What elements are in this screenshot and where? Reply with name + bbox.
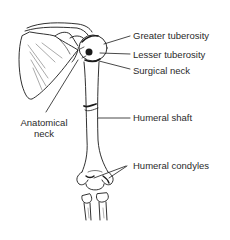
scapula	[19, 32, 78, 99]
label-anatomical-neck-line1: Anatomical	[16, 117, 72, 128]
humeral-condyles	[77, 171, 113, 191]
label-humeral-shaft: Humeral shaft	[133, 112, 192, 123]
label-lesser-tuberosity: Lesser tuberosity	[133, 49, 205, 60]
label-surgical-neck: Surgical neck	[133, 65, 190, 76]
forearm-bones	[82, 193, 109, 220]
label-anatomical-neck-line2: neck	[16, 128, 72, 139]
humeral-shaft	[82, 62, 108, 172]
humeral-head	[79, 35, 107, 61]
label-humeral-condyles: Humeral condyles	[133, 160, 209, 171]
label-greater-tuberosity: Greater tuberosity	[133, 30, 209, 41]
